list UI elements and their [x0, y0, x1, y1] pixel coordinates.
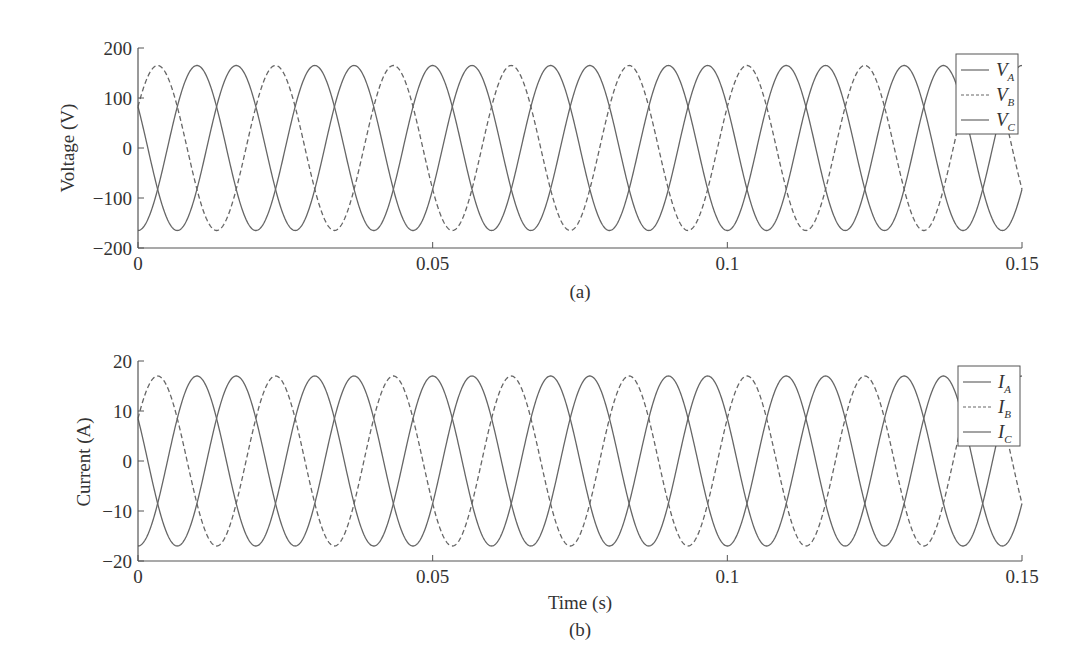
y-tick-label: 100	[104, 88, 133, 109]
x-tick-label: 0.05	[416, 253, 449, 274]
x-tick-label: 0.1	[715, 566, 739, 587]
y-tick-label: 200	[104, 38, 133, 59]
x-tick-label: 0.15	[1005, 566, 1038, 587]
panel-a-label: (a)	[569, 281, 590, 303]
x-tick-label: 0	[133, 253, 143, 274]
trace-i-c	[138, 376, 1022, 546]
current-y-axis-label: Current (A)	[73, 417, 95, 506]
current-axes: 20100−10−2000.050.10.15	[102, 351, 1038, 587]
y-tick-label: −20	[102, 551, 132, 572]
voltage-traces	[138, 66, 1022, 231]
panel-b-label: (b)	[569, 619, 591, 641]
time-x-axis-label: Time (s)	[548, 592, 612, 614]
x-tick-label: 0	[133, 566, 143, 587]
voltage-plot: 2001000−100−20000.050.10.15 Voltage (V) …	[57, 38, 1039, 303]
y-tick-label: 0	[123, 138, 133, 159]
x-tick-label: 0.05	[416, 566, 449, 587]
voltage-y-axis-label: Voltage (V)	[57, 104, 79, 193]
y-tick-label: 20	[113, 351, 132, 372]
current-traces	[138, 376, 1022, 546]
figure: 2001000−100−20000.050.10.15 Voltage (V) …	[0, 0, 1090, 650]
y-tick-label: −200	[93, 238, 132, 259]
current-plot: 20100−10−2000.050.10.15 Current (A) Time…	[73, 351, 1039, 641]
y-tick-label: 10	[113, 401, 132, 422]
voltage-legend: VAVBVC	[956, 54, 1018, 134]
y-tick-label: −100	[93, 188, 132, 209]
y-tick-label: 0	[123, 451, 133, 472]
x-tick-label: 0.1	[715, 253, 739, 274]
y-tick-label: −10	[102, 501, 132, 522]
current-legend: IAIBIC	[958, 366, 1020, 446]
trace-v-c	[138, 66, 1022, 231]
x-tick-label: 0.15	[1005, 253, 1038, 274]
